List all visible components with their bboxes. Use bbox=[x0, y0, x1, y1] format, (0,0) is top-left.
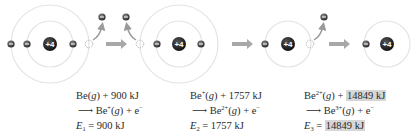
equation-third-ionization: Be2+(g) + 14849 kJ ⟶ Be3+(g) + e− E3 = 1… bbox=[304, 88, 386, 133]
ejection-arrow-icon bbox=[127, 26, 136, 40]
electron-icon bbox=[69, 40, 76, 47]
reactant-charge: + bbox=[202, 89, 206, 96]
product-charge: 3+ bbox=[335, 104, 342, 111]
energy-line: E2 = 1757 kJ bbox=[190, 118, 262, 133]
energy-line: E1 = 900 kJ bbox=[76, 118, 143, 133]
ejection-arrow-icon bbox=[93, 26, 102, 40]
electron-icon bbox=[261, 40, 268, 47]
electron-icon bbox=[362, 40, 369, 47]
electron-icon bbox=[197, 40, 204, 47]
nucleus-charge: +4 bbox=[174, 40, 184, 49]
energy-value-highlighted: 14849 kJ bbox=[325, 120, 365, 131]
energy-value: 900 kJ bbox=[97, 120, 125, 131]
electron-charge: − bbox=[370, 104, 374, 111]
ionization-diagram: +4 +4 +4 bbox=[0, 0, 415, 90]
atom-be: +4 bbox=[7, 5, 105, 83]
product: Be bbox=[96, 105, 108, 116]
electron-icon bbox=[23, 40, 30, 47]
product: Be bbox=[210, 105, 222, 116]
process-arrow-icon bbox=[232, 39, 253, 49]
nucleus-charge: +4 bbox=[382, 40, 392, 49]
equation-second-ionization: Be+(g) + 1757 kJ ⟶ Be2+(g) + e− E2 = 175… bbox=[190, 88, 262, 133]
reaction-arrow-icon: ⟶ bbox=[78, 105, 93, 116]
energy-label-sub: 3 bbox=[310, 125, 313, 132]
product-charge: 2+ bbox=[221, 104, 228, 111]
ejected-electron-icon bbox=[320, 13, 327, 20]
reactant: Be bbox=[190, 90, 202, 101]
nucleus-charge: +4 bbox=[283, 40, 293, 49]
energy-label-sub: 2 bbox=[196, 125, 199, 132]
ejection-arrow-icon bbox=[314, 26, 323, 40]
energy-value: 1757 kJ bbox=[211, 120, 244, 131]
reactant: Be bbox=[304, 90, 316, 101]
vacancy-icon bbox=[306, 40, 314, 48]
nucleus-charge: +4 bbox=[45, 40, 55, 49]
state: g bbox=[91, 90, 96, 101]
product: Be bbox=[324, 105, 336, 116]
energy-input-highlighted: 14849 kJ bbox=[346, 90, 386, 101]
electron-charge: − bbox=[139, 104, 143, 111]
atom-be-plus: +4 bbox=[122, 5, 218, 83]
reaction-line: Be(g) + 900 kJ bbox=[76, 88, 143, 103]
product-line: ⟶ Be2+(g) + e− bbox=[190, 103, 262, 118]
ejected-electron-icon bbox=[98, 13, 105, 20]
reactant: Be bbox=[76, 90, 88, 101]
electron-icon bbox=[7, 40, 14, 47]
state: g bbox=[232, 105, 237, 116]
atom-be-3plus: +4 bbox=[362, 21, 410, 67]
electron-icon bbox=[153, 40, 160, 47]
atom-be-2plus: +4 bbox=[261, 13, 327, 67]
energy-line: E3 = 14849 kJ bbox=[304, 118, 386, 133]
state: g bbox=[115, 105, 120, 116]
state: g bbox=[326, 90, 331, 101]
reaction-arrow-icon: ⟶ bbox=[192, 105, 207, 116]
process-arrow-icon bbox=[329, 39, 350, 49]
product-line: ⟶ Be3+(g) + e− bbox=[304, 103, 386, 118]
reactant-charge: 2+ bbox=[316, 89, 323, 96]
energy-label-sub: 1 bbox=[82, 125, 85, 132]
energy-input: 1757 kJ bbox=[229, 90, 262, 101]
reaction-arrow-icon: ⟶ bbox=[306, 105, 321, 116]
state: g bbox=[346, 105, 351, 116]
equation-first-ionization: Be(g) + 900 kJ ⟶ Be+(g) + e− E1 = 900 kJ bbox=[76, 88, 143, 133]
reaction-line: Be2+(g) + 14849 kJ bbox=[304, 88, 386, 103]
product-charge: + bbox=[107, 104, 111, 111]
state: g bbox=[209, 90, 214, 101]
energy-input: 900 kJ bbox=[111, 90, 139, 101]
reaction-line: Be+(g) + 1757 kJ bbox=[190, 88, 262, 103]
ejected-electron-icon bbox=[122, 13, 129, 20]
product-line: ⟶ Be+(g) + e− bbox=[76, 103, 143, 118]
electron-charge: − bbox=[256, 104, 260, 111]
process-arrow-icon bbox=[106, 39, 127, 49]
